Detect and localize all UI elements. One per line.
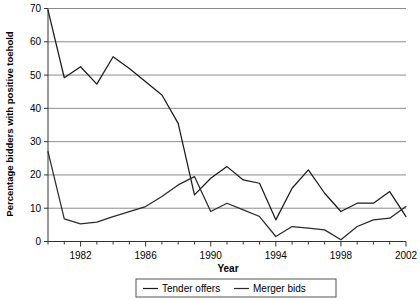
x-axis-tick-label: 1986 (135, 250, 158, 261)
chart-container: 010203040506070 198219861990199419982002… (0, 0, 420, 300)
line-chart: 010203040506070 198219861990199419982002… (0, 0, 420, 300)
y-axis-tick-label: 50 (30, 70, 42, 81)
x-axis-tick-label: 1998 (330, 250, 353, 261)
y-axis-tick-label: 0 (35, 236, 41, 247)
x-axis-tick-label: 1990 (200, 250, 223, 261)
x-axis-title: Year (217, 263, 238, 274)
y-axis-tick-label: 20 (30, 169, 42, 180)
y-axis-tick-label: 70 (30, 3, 42, 14)
x-axis-tick-label: 1982 (69, 250, 92, 261)
x-axis-tick-label: 1994 (265, 250, 288, 261)
legend-label-merger-bids[interactable]: Merger bids (253, 283, 306, 294)
legend-label-tender-offers[interactable]: Tender offers (162, 283, 220, 294)
y-axis-title: Percentage bidders with positive toehold (4, 31, 15, 216)
y-axis-tick-label: 30 (30, 136, 42, 147)
y-axis-tick-label: 40 (30, 103, 42, 114)
chart-legend: Tender offers Merger bids (136, 279, 336, 297)
y-axis-tick-label: 60 (30, 36, 42, 47)
y-axis-tick-label: 10 (30, 203, 42, 214)
x-axis-tick-label: 2002 (395, 250, 418, 261)
